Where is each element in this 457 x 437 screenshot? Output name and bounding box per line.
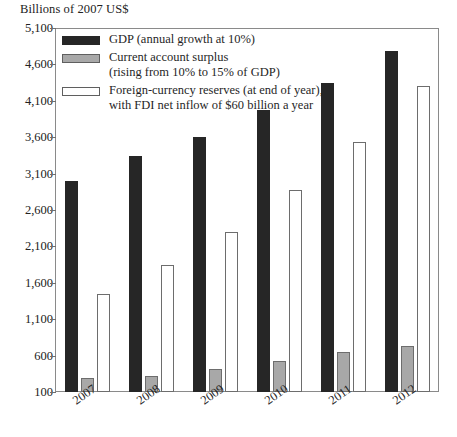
legend-label-surplus: Current account surplus (rising from 10%… (109, 50, 280, 81)
x-tick-label: 2008 (134, 382, 163, 409)
legend-item-reserves: Foreign-currency reserves (at end of yea… (62, 83, 392, 114)
legend-label-reserves-line2: with FDI net inflow of $60 billion a yea… (109, 98, 323, 114)
chart-legend: GDP (annual growth at 10%) Current accou… (62, 32, 392, 116)
legend-item-surplus: Current account surplus (rising from 10%… (62, 50, 392, 81)
legend-label-surplus-line2: (rising from 10% to 15% of GDP) (109, 65, 280, 81)
legend-label-gdp-line1: GDP (annual growth at 10%) (109, 32, 255, 46)
legend-item-gdp: GDP (annual growth at 10%) (62, 32, 392, 48)
legend-label-reserves: Foreign-currency reserves (at end of yea… (109, 83, 323, 114)
legend-label-surplus-line1: Current account surplus (109, 50, 280, 66)
x-tick-label: 2009 (198, 382, 227, 409)
x-tick-label: 2011 (326, 382, 355, 408)
x-tick-label: 2007 (70, 382, 99, 409)
legend-swatch-reserves-icon (62, 87, 100, 96)
legend-swatch-gdp-icon (62, 36, 100, 45)
x-tick-label: 2010 (262, 382, 291, 409)
legend-swatch-surplus-icon (62, 54, 100, 63)
legend-label-gdp: GDP (annual growth at 10%) (109, 32, 255, 48)
bar-chart: Billions of 2007 US$ 5,1004,6004,1003,60… (0, 0, 457, 437)
legend-label-reserves-line1: Foreign-currency reserves (at end of yea… (109, 83, 323, 99)
x-tick-label: 2012 (390, 382, 419, 409)
